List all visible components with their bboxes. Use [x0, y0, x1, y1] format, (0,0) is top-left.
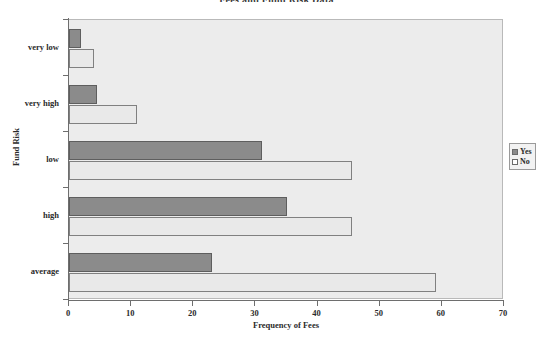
y-axis-title: Fund Risk	[11, 107, 21, 187]
bar-yes-very-low	[69, 29, 81, 48]
bars-layer	[69, 20, 502, 298]
legend-swatch-icon	[512, 159, 518, 165]
y-axis-tick	[63, 75, 68, 76]
y-axis-tick	[63, 131, 68, 132]
bar-no-high	[69, 217, 352, 236]
y-axis-tick	[63, 243, 68, 244]
x-tick-label: 0	[53, 308, 83, 318]
bar-chart: Fees and Fund Risk Data very lowvery hig…	[0, 0, 553, 340]
x-tick-label: 50	[364, 308, 394, 318]
y-tick-label: average	[0, 266, 59, 276]
x-tick-label: 40	[302, 308, 332, 318]
bar-yes-high	[69, 197, 287, 216]
x-axis-tick	[379, 301, 380, 306]
bar-no-low	[69, 161, 352, 180]
legend-swatch-icon	[512, 149, 518, 155]
legend-label: Yes	[520, 147, 532, 156]
x-tick-label: 70	[488, 308, 518, 318]
x-tick-label: 10	[115, 308, 145, 318]
bar-no-average	[69, 273, 436, 292]
plot-area	[68, 19, 503, 299]
y-tick-label: very high	[0, 98, 59, 108]
x-axis-title: Frequency of Fees	[68, 320, 504, 330]
x-axis-tick	[317, 301, 318, 306]
x-axis-tick	[68, 301, 69, 306]
y-axis-tick	[63, 19, 68, 20]
y-axis-line	[68, 18, 69, 301]
y-tick-label: very low	[0, 42, 59, 52]
bar-yes-very-high	[69, 85, 97, 104]
x-axis-tick	[503, 301, 504, 306]
y-tick-label: low	[0, 154, 59, 164]
x-axis-line	[68, 300, 504, 301]
y-tick-label: high	[0, 210, 59, 220]
bar-yes-low	[69, 141, 262, 160]
x-axis-tick	[254, 301, 255, 306]
x-tick-label: 60	[426, 308, 456, 318]
bar-no-very-high	[69, 105, 137, 124]
x-tick-label: 30	[239, 308, 269, 318]
x-axis-tick	[192, 301, 193, 306]
x-axis-tick	[130, 301, 131, 306]
legend-item-yes[interactable]: Yes	[512, 147, 532, 156]
x-axis-tick	[441, 301, 442, 306]
chart-legend: YesNo	[509, 143, 536, 170]
y-axis-tick	[63, 299, 68, 300]
x-tick-label: 20	[177, 308, 207, 318]
bar-no-very-low	[69, 49, 94, 68]
chart-title: Fees and Fund Risk Data	[0, 0, 553, 2]
legend-item-no[interactable]: No	[512, 157, 532, 166]
bar-yes-average	[69, 253, 212, 272]
legend-label: No	[520, 157, 530, 166]
y-axis-tick	[63, 187, 68, 188]
